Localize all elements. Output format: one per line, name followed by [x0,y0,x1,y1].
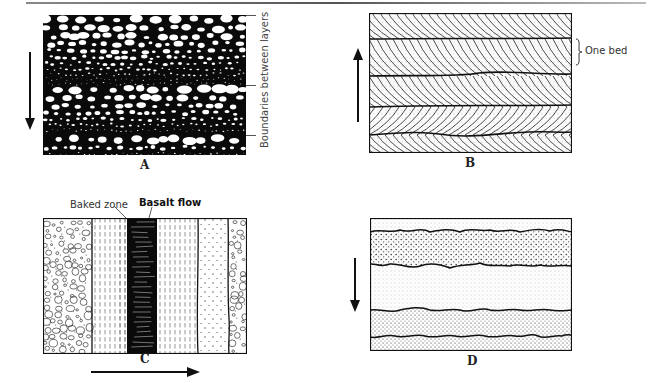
panel-c-basalt-strata [43,218,247,354]
boundary-tick-3 [246,135,256,136]
one-bed-label: One bed [585,45,627,56]
erosional-layers-drawing [370,218,572,351]
boundary-tick-1 [246,15,256,16]
boundary-tick-2 [246,85,256,86]
panel-label-d: D [467,354,477,368]
baked-zone-leader [112,205,132,219]
graded-bedding-drawing [43,15,246,155]
arrow-down-icon-d [350,258,360,313]
top-rule [26,2,646,4]
panel-d-erosional-contacts [370,218,572,351]
panel-b-cross-bedding [369,13,572,153]
arrow-up-icon [353,48,363,123]
bed-brace-icon [575,38,583,66]
panel-label-c: C [140,352,150,366]
panel-a-graded-bedding [43,15,246,155]
boundaries-label: Boundaries between layers [259,12,270,148]
arrow-right-icon [91,367,201,377]
panel-label-b: B [465,156,475,170]
panel-label-a: A [140,158,149,172]
cross-bedding-drawing [369,13,572,153]
vertical-strata-drawing [43,218,247,354]
arrow-down-icon [25,52,35,132]
